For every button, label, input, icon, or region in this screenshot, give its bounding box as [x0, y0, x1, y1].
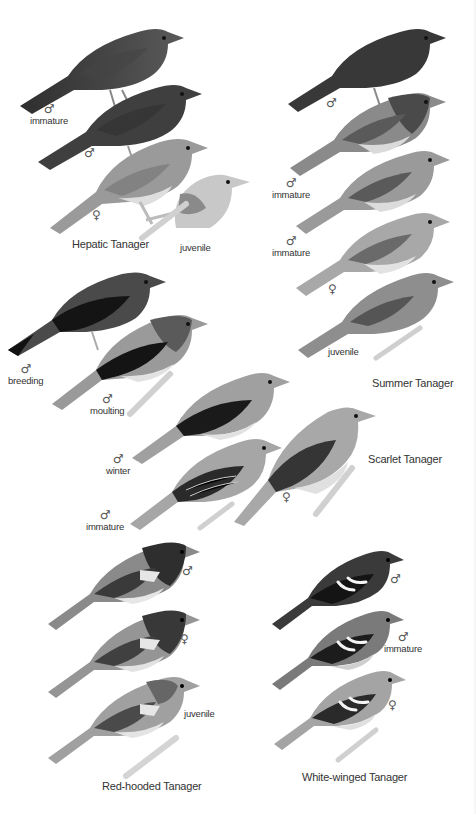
label-text: immature [86, 521, 124, 532]
bird-scarlet-female [232, 398, 378, 528]
label-text: immature [384, 643, 422, 654]
label-whitewinged-immature: ♂ immature [384, 632, 422, 654]
label-scarlet-immature: ♂ immature [86, 510, 124, 532]
female-symbol-icon: ♀ [180, 634, 189, 645]
species-title-redhooded: Red-hooded Tanager [102, 780, 202, 792]
bird-redhooded-juvenile [46, 668, 202, 778]
species-title-whitewinged: White-winged Tanager [302, 771, 407, 783]
label-redhooded-male: ♂ [182, 566, 193, 577]
species-title-summer: Summer Tanager [372, 377, 453, 389]
male-symbol-icon: ♂ [90, 394, 124, 405]
label-hepatic-female: ♀ [92, 210, 101, 221]
label-text: breeding [8, 375, 43, 386]
label-scarlet-breeding: ♂ breeding [8, 364, 43, 386]
bird-summer-juvenile [296, 264, 456, 360]
field-guide-plate: ♂ immature ♂ ♀ Hepatic T [0, 0, 476, 814]
label-scarlet-moulting: ♂ moulting [90, 394, 124, 416]
label-scarlet-winter: ♂ winter [106, 454, 130, 476]
label-summer-juvenile: juvenile [328, 346, 359, 357]
label-text: moulting [90, 405, 124, 416]
female-symbol-icon: ♀ [388, 700, 397, 711]
species-title-scarlet: Scarlet Tanager [368, 453, 442, 465]
label-whitewinged-male: ♂ [390, 574, 401, 585]
label-whitewinged-female: ♀ [388, 700, 397, 711]
label-redhooded-female: ♀ [180, 634, 189, 645]
label-redhooded-juvenile: juvenile [184, 708, 215, 719]
male-symbol-icon: ♂ [182, 566, 193, 577]
female-symbol-icon: ♀ [92, 210, 101, 221]
male-symbol-icon: ♂ [8, 364, 43, 375]
male-symbol-icon: ♂ [390, 574, 401, 585]
bird-whitewinged-female [272, 664, 408, 764]
label-text: winter [106, 465, 130, 476]
label-hepatic-juvenile: juvenile [180, 242, 211, 253]
male-symbol-icon: ♂ [384, 632, 422, 643]
label-scarlet-female: ♀ [282, 492, 291, 503]
female-symbol-icon: ♀ [282, 492, 291, 503]
male-symbol-icon: ♂ [86, 510, 124, 521]
male-symbol-icon: ♂ [106, 454, 130, 465]
branch [140, 200, 190, 240]
species-title-hepatic: Hepatic Tanager [72, 238, 149, 250]
